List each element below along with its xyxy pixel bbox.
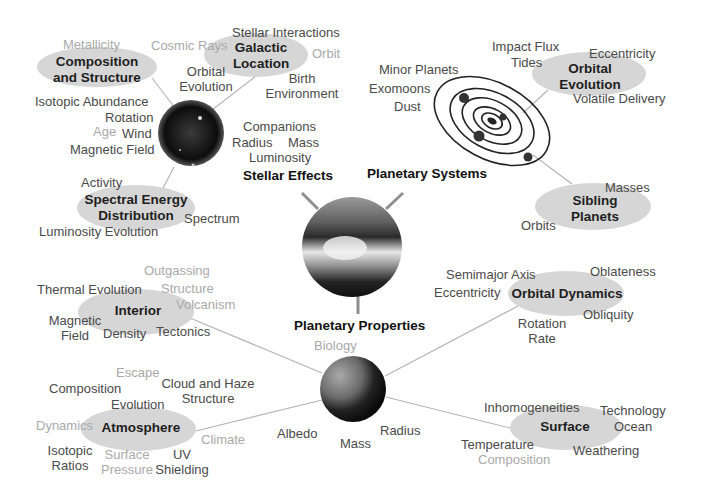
term-masses: Masses: [605, 180, 650, 195]
term-thermal-evolution: Thermal Evolution: [37, 282, 142, 297]
atmosphere-title: Atmosphere: [99, 420, 183, 436]
term-metallicity: Metallicity: [63, 37, 120, 52]
term-isotopic-ratios: Isotopic Ratios: [44, 443, 96, 473]
term-radius-planet: Radius: [380, 423, 420, 438]
term-rotation: Rotation: [105, 110, 153, 125]
planetary-properties-hub: Planetary Properties: [294, 318, 425, 334]
term-exomoons: Exomoons: [369, 81, 430, 96]
term-activity: Activity: [81, 175, 122, 190]
term-magnetic-field-planet: Magnetic Field: [46, 313, 104, 343]
term-tectonics: Tectonics: [156, 324, 210, 339]
term-inhomogeneities: Inhomogeneities: [484, 400, 579, 415]
surface-title: Surface: [535, 419, 595, 435]
term-eccentricity-evo: Eccentricity: [589, 46, 655, 61]
planetary-habitability-diagram: Composition and Structure Galactic Locat…: [0, 0, 702, 497]
term-temperature: Temperature: [461, 437, 534, 452]
term-climate: Climate: [201, 432, 245, 447]
term-wind: Wind: [122, 126, 152, 141]
term-dust: Dust: [394, 99, 421, 114]
term-spectrum: Spectrum: [184, 211, 240, 226]
term-outgassing: Outgassing: [144, 263, 210, 278]
term-orbit: Orbit: [312, 46, 340, 61]
term-composition-atmo: Composition: [49, 381, 121, 396]
interior-title: Interior: [108, 303, 168, 319]
term-age: Age: [93, 124, 116, 139]
term-minor-planets: Minor Planets: [379, 62, 458, 77]
spectral-energy-title: Spectral Energy Distribution: [80, 192, 192, 224]
term-cosmic-rays: Cosmic Rays: [151, 38, 228, 53]
star-image: [158, 100, 224, 166]
term-volcanism: Volcanism: [176, 297, 235, 312]
term-technology: Technology: [600, 403, 666, 418]
term-isotopic-abundance: Isotopic Abundance: [35, 94, 148, 109]
term-tides: Tides: [511, 55, 542, 70]
term-density: Density: [103, 326, 146, 341]
term-evolution-atmo: Evolution: [111, 397, 164, 412]
term-radius-star: Radius: [232, 135, 272, 150]
term-ocean: Ocean: [614, 419, 652, 434]
term-obliquity: Obliquity: [583, 307, 634, 322]
term-magnetic-field-star: Magnetic Field: [70, 142, 155, 157]
term-volatile-delivery: Volatile Delivery: [573, 91, 666, 106]
term-uv-shielding: UV Shielding: [153, 447, 211, 477]
term-surface-pressure: Surface Pressure: [100, 447, 154, 477]
term-eccentricity-dyn: Eccentricity: [434, 285, 500, 300]
term-stellar-interactions: Stellar Interactions: [232, 25, 340, 40]
term-orbital-evolution-star: Orbital Evolution: [178, 64, 234, 94]
term-mass-planet: Mass: [340, 436, 371, 451]
term-escape: Escape: [116, 365, 159, 380]
term-dynamics: Dynamics: [36, 418, 93, 433]
term-impact-flux: Impact Flux: [492, 39, 559, 54]
term-rotation-rate: Rotation Rate: [514, 316, 570, 346]
galactic-location-title: Galactic Location: [226, 40, 296, 72]
planetary-systems-hub: Planetary Systems: [367, 166, 487, 182]
sibling-planets-title: Sibling Planets: [553, 193, 637, 225]
orbital-evolution-title: Orbital Evolution: [548, 61, 632, 93]
term-albedo: Albedo: [277, 426, 317, 441]
composition-structure-title: Composition and Structure: [40, 54, 154, 86]
term-luminosity-evolution: Luminosity Evolution: [39, 224, 158, 239]
term-birth-environment: Birth Environment: [264, 71, 340, 101]
term-mass-star: Mass: [288, 135, 319, 150]
term-luminosity: Luminosity: [249, 150, 311, 165]
moon-image: [320, 356, 386, 422]
term-semimajor-axis: Semimajor Axis: [446, 267, 536, 282]
orbital-dynamics-title: Orbital Dynamics: [508, 286, 626, 302]
term-structure-interior: Structure: [161, 281, 214, 296]
term-composition-surface: Composition: [478, 452, 550, 467]
term-companions: Companions: [243, 119, 316, 134]
term-oblateness: Oblateness: [590, 264, 656, 279]
term-biology: Biology: [314, 338, 357, 353]
stellar-effects-hub: Stellar Effects: [243, 168, 333, 184]
term-weathering: Weathering: [573, 443, 639, 458]
term-orbits: Orbits: [521, 218, 556, 233]
term-cloud-haze-structure: Cloud and Haze Structure: [160, 376, 256, 406]
